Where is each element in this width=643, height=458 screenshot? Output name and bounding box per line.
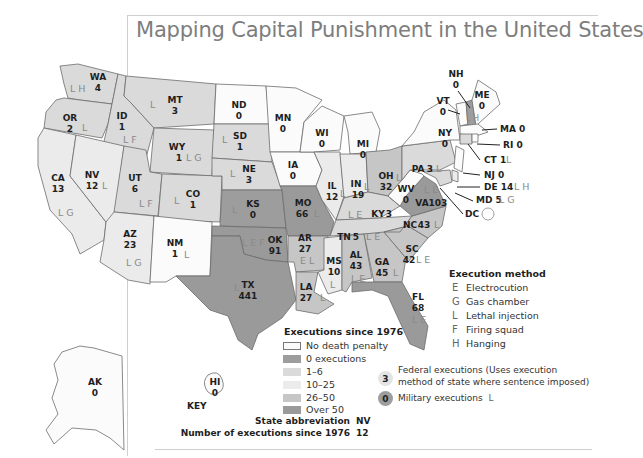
- svg-text:L E F: L E F: [242, 237, 265, 248]
- svg-text:6: 6: [132, 184, 138, 194]
- svg-text:1: 1: [172, 249, 178, 259]
- svg-text:0: 0: [280, 124, 286, 134]
- svg-text:L: L: [506, 154, 512, 165]
- svg-text:19: 19: [352, 190, 365, 200]
- state-ks[interactable]: [220, 190, 286, 228]
- legend-1-6: 1–6: [283, 366, 323, 377]
- svg-text:L: L: [174, 195, 180, 206]
- svg-text:10: 10: [328, 267, 341, 277]
- state-ct[interactable]: [460, 134, 472, 144]
- svg-text:E L: E L: [300, 255, 315, 266]
- swatch-26-50: [283, 394, 301, 402]
- legend-over-50: Over 50: [283, 404, 344, 415]
- state-ak[interactable]: [46, 346, 124, 450]
- svg-text:CA: CA: [51, 173, 65, 183]
- svg-text:DE 14: DE 14: [484, 182, 513, 192]
- svg-text:ID: ID: [117, 111, 128, 121]
- svg-text:L: L: [230, 168, 236, 179]
- svg-text:VT: VT: [436, 96, 450, 106]
- svg-text:L E: L E: [366, 231, 380, 242]
- svg-text:0: 0: [92, 388, 98, 398]
- key-count-value: 12: [356, 428, 369, 438]
- svg-text:23: 23: [124, 240, 137, 250]
- svg-text:IA: IA: [288, 160, 298, 170]
- svg-text:4: 4: [95, 83, 101, 93]
- svg-text:WV: WV: [398, 184, 415, 194]
- svg-text:L: L: [222, 134, 228, 145]
- svg-text:MO: MO: [295, 198, 312, 208]
- swatch-over-50: [283, 406, 301, 414]
- svg-text:L: L: [330, 279, 336, 290]
- svg-text:L F: L F: [139, 198, 153, 209]
- svg-text:L: L: [184, 249, 190, 260]
- svg-text:OH: OH: [378, 171, 393, 181]
- svg-text:1: 1: [237, 142, 243, 152]
- svg-text:L F: L F: [123, 134, 137, 145]
- state-de[interactable]: [452, 170, 458, 182]
- svg-text:NY: NY: [438, 128, 453, 138]
- state-wy[interactable]: [150, 128, 214, 176]
- svg-text:NJ 0: NJ 0: [484, 170, 504, 180]
- svg-text:L H: L H: [70, 83, 85, 94]
- state-wa[interactable]: [60, 64, 118, 104]
- svg-text:L E: L E: [351, 273, 365, 284]
- svg-text:L: L: [102, 180, 108, 191]
- legend-no-death-penalty: No death penalty: [283, 340, 388, 351]
- svg-text:L E: L E: [416, 254, 430, 265]
- svg-text:L: L: [436, 163, 442, 174]
- svg-text:L: L: [232, 204, 238, 215]
- svg-text:L E: L E: [348, 209, 362, 220]
- swatch-10-25: [283, 381, 301, 389]
- state-nm[interactable]: [150, 216, 212, 282]
- state-ri[interactable]: [472, 134, 478, 142]
- svg-text:0: 0: [479, 101, 485, 111]
- svg-text:43: 43: [418, 220, 431, 230]
- svg-text:0: 0: [442, 139, 448, 149]
- federal-executions-note: Federal executions (Uses execution metho…: [398, 364, 589, 388]
- svg-text:L: L: [434, 219, 440, 230]
- svg-text:WI: WI: [315, 128, 328, 138]
- legend-26-50: 26–50: [283, 392, 335, 403]
- svg-text:WA: WA: [90, 72, 107, 82]
- swatch-1-6: [283, 368, 301, 376]
- svg-text:OK: OK: [268, 235, 284, 245]
- svg-text:45: 45: [376, 268, 389, 278]
- svg-text:L G: L G: [499, 194, 515, 205]
- svg-text:IN: IN: [351, 179, 362, 189]
- legend-method-title: Execution method: [449, 268, 546, 279]
- svg-text:441: 441: [239, 291, 258, 301]
- state-nj[interactable]: [454, 146, 464, 172]
- svg-text:91: 91: [269, 246, 282, 256]
- key-count-label: Number of executions since 1976: [144, 428, 350, 438]
- state-ne[interactable]: [212, 158, 282, 190]
- svg-text:AK: AK: [88, 377, 103, 387]
- svg-text:DC: DC: [465, 209, 479, 219]
- svg-text:3: 3: [386, 209, 392, 219]
- svg-text:0: 0: [440, 107, 446, 117]
- svg-text:3: 3: [172, 106, 178, 116]
- svg-text:3: 3: [246, 175, 252, 185]
- legend-10-25: 10–25: [283, 379, 335, 390]
- legend-zero-executions: 0 executions: [283, 353, 366, 364]
- svg-text:SC: SC: [405, 244, 418, 254]
- svg-text:LA: LA: [300, 282, 313, 292]
- svg-text:32: 32: [380, 182, 393, 192]
- svg-text:L G: L G: [58, 207, 74, 218]
- swatch-no-death-penalty: [283, 342, 301, 350]
- svg-text:L: L: [396, 172, 402, 183]
- svg-text:0: 0: [250, 210, 256, 220]
- svg-text:KS: KS: [246, 199, 259, 209]
- svg-text:5: 5: [353, 232, 359, 242]
- svg-text:L: L: [314, 208, 320, 219]
- svg-text:AZ: AZ: [123, 229, 137, 239]
- svg-text:0: 0: [212, 388, 218, 398]
- svg-text:0: 0: [360, 150, 366, 160]
- svg-text:MI: MI: [357, 139, 369, 149]
- svg-text:L G: L G: [186, 152, 202, 163]
- key-abbr-value: NV: [356, 416, 371, 426]
- state-ny[interactable]: [402, 100, 460, 146]
- svg-text:WY: WY: [169, 142, 186, 152]
- method-hanging: HHanging: [452, 338, 506, 349]
- method-gas-chamber: GGas chamber: [452, 296, 529, 307]
- svg-text:NE: NE: [242, 164, 256, 174]
